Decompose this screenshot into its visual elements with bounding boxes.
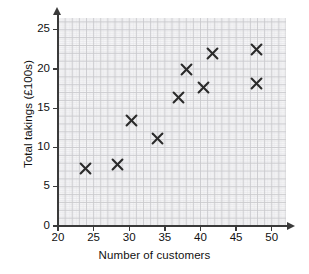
x-axis-tick-label: 35 (150, 231, 180, 243)
y-axis-tick-label: 25 (26, 22, 50, 34)
y-axis-title: Total takings (£100s) (22, 34, 34, 194)
y-axis-tick (53, 186, 58, 187)
data-point (125, 114, 138, 127)
x-axis-tick-label: 30 (114, 231, 144, 243)
x-axis-line (57, 225, 289, 227)
plot-area (58, 18, 286, 226)
data-point (250, 77, 263, 90)
y-axis-line (57, 14, 59, 227)
x-axis-arrow-icon (287, 222, 295, 230)
y-axis-tick (53, 225, 58, 226)
data-point (250, 43, 263, 56)
data-point (180, 63, 193, 76)
data-point (206, 47, 219, 60)
x-axis-title: Number of customers (0, 249, 309, 261)
y-axis-tick-label: 0 (26, 219, 50, 231)
y-axis-tick-label: 10 (26, 140, 50, 152)
y-axis-tick (53, 29, 58, 30)
data-point (197, 81, 210, 94)
y-axis-tick (53, 68, 58, 69)
y-axis-tick-label: 5 (26, 179, 50, 191)
y-axis-tick (53, 108, 58, 109)
x-axis-tick-label: 45 (221, 231, 251, 243)
y-axis-tick (53, 147, 58, 148)
scatter-chart: Total takings (£100s) (0, 0, 309, 274)
x-axis-tick-label: 50 (257, 231, 287, 243)
x-axis-tick-label: 20 (43, 231, 73, 243)
data-point (172, 91, 185, 104)
data-point (79, 162, 92, 175)
y-axis-tick-label: 15 (26, 101, 50, 113)
x-axis-tick-label: 25 (79, 231, 109, 243)
y-axis-arrow-icon (53, 7, 61, 15)
y-axis-tick-label: 20 (26, 62, 50, 74)
x-axis-tick-label: 40 (186, 231, 216, 243)
data-point (111, 158, 124, 171)
data-point (151, 132, 164, 145)
